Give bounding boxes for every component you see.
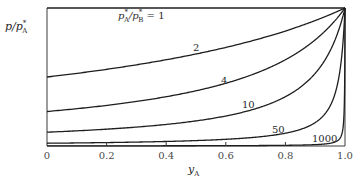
- curve-label-alpha-10: 10: [242, 99, 255, 110]
- x-tick-label: 0: [44, 150, 50, 161]
- x-tick-label: 0.2: [99, 150, 115, 161]
- curves: [47, 8, 345, 146]
- curve-label-alpha-50: 50: [272, 124, 285, 135]
- x-tick-label: 0.6: [218, 150, 234, 161]
- x-tick-label: 0.4: [158, 150, 174, 161]
- curve-label-alpha-1: p*A/p*B = 1: [118, 8, 165, 24]
- curve-label-alpha-4: 4: [221, 75, 227, 86]
- curve-alpha-4: [47, 8, 345, 112]
- curve-label-alpha-1000: 1000: [312, 133, 337, 144]
- chart: 00.20.40.60.81.0 p/p*A yA p*A/p*B = 1 2 …: [0, 0, 364, 184]
- curve-alpha-50: [47, 8, 345, 143]
- x-axis-label: yA: [187, 163, 200, 178]
- x-tick-label: 1.0: [337, 150, 353, 161]
- plot-frame: [47, 8, 345, 146]
- x-tick-label: 0.8: [277, 150, 293, 161]
- y-axis-label: p/p*A: [5, 19, 28, 35]
- curve-label-alpha-2: 2: [193, 42, 199, 53]
- curve-alpha-1000: [47, 8, 345, 146]
